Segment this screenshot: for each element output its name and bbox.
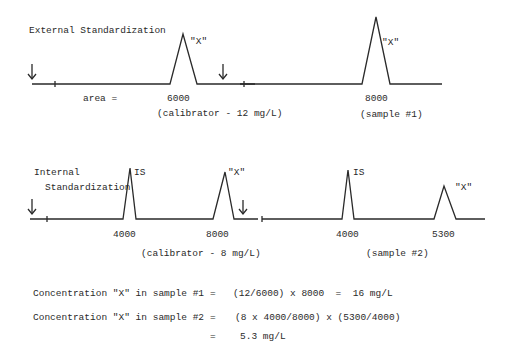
peak-area-value: 6000 (167, 93, 190, 104)
equation-3-equals: = (210, 331, 216, 342)
equation-3-right: 5.3 mg/L (240, 331, 286, 342)
peak-label: "X" (455, 182, 472, 193)
peak-area-value: 4000 (336, 229, 359, 240)
equation-2-left: Concentration "X" in sample #2 (33, 312, 204, 323)
sample-label: (sample #1) (360, 109, 423, 120)
peak-label: IS (134, 167, 146, 178)
internal-chromatogram (28, 168, 485, 222)
chromatogram-diagram: External Standardization "X" "X" area = … (0, 0, 512, 359)
equation-1-right: (12/6000) x 8000 = 16 mg/L (233, 288, 393, 299)
peak-label: IS (353, 167, 365, 178)
peak-label: "X" (190, 36, 207, 47)
sample-label: (sample #2) (366, 248, 429, 259)
equation-2-right: (8 x 4000/8000) x (5300/4000) (235, 312, 400, 323)
external-title: External Standardization (29, 25, 166, 36)
injection-arrow-icon (239, 200, 247, 214)
injection-arrow-icon (28, 64, 36, 79)
equation-2-equals: = (210, 312, 216, 323)
peak-label: "X" (228, 167, 245, 178)
equation-1-equals: = (210, 288, 216, 299)
internal-title-line2: Standardization (45, 182, 131, 193)
peak-area-value: 8000 (206, 229, 229, 240)
calibrator-label: (calibrator - 8 mg/L) (141, 248, 261, 259)
peak-label: "X" (382, 37, 399, 48)
calibrator-label: (calibrator - 12 mg/L) (157, 108, 282, 119)
peak-area-value: 8000 (365, 93, 388, 104)
peak-area-value: 5300 (432, 229, 455, 240)
injection-arrow-icon (219, 64, 227, 79)
area-label: area = (83, 93, 118, 104)
peak-area-value: 4000 (113, 229, 136, 240)
internal-title-line1: Internal (34, 167, 80, 178)
injection-arrow-icon (28, 199, 36, 214)
equation-1-left: Concentration "X" in sample #1 (33, 288, 204, 299)
